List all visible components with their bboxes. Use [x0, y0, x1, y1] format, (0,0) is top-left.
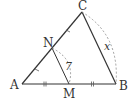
measure-NM: 7	[65, 60, 72, 73]
label-M: M	[63, 87, 75, 101]
label-C: C	[78, 0, 87, 13]
triangle-diagram: A B C N M 7 x	[0, 0, 137, 106]
tick-AN	[35, 69, 39, 71]
measure-CB: x	[104, 40, 111, 53]
label-B: B	[119, 79, 128, 93]
label-N: N	[43, 36, 54, 50]
segment-CB	[82, 12, 116, 84]
label-A: A	[9, 78, 19, 92]
